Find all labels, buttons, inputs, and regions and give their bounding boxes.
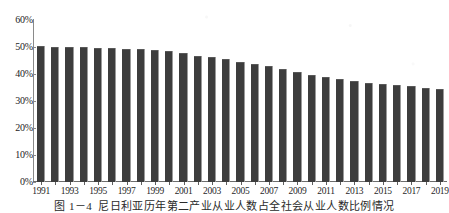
y-tick: 20% — [0, 128, 33, 129]
y-tick: 40% — [0, 74, 33, 75]
bar — [279, 69, 287, 182]
figure-caption: 图 1－4尼日利亚历年第二产业从业人数占全社会从业人数比例情况 — [0, 199, 449, 213]
bar — [265, 66, 273, 182]
bar-series — [34, 20, 447, 182]
bar — [379, 84, 387, 182]
y-tick: 30% — [0, 101, 33, 102]
y-tick-label: 10% — [2, 150, 33, 160]
x-tick-label: 1997 — [118, 185, 136, 197]
bar — [365, 83, 373, 182]
x-tick-label: 1995 — [89, 185, 107, 197]
x-tick-label: 2011 — [317, 185, 334, 197]
y-tick-label: 60% — [2, 15, 33, 25]
x-tick-label: 2005 — [232, 185, 250, 197]
y-tick: 0% — [0, 182, 33, 183]
x-tick-label: 2019 — [431, 185, 449, 197]
x-tick-label: 1999 — [146, 185, 164, 197]
x-axis-labels: 1991199319951997199920012003200520072009… — [34, 185, 447, 198]
bar — [80, 47, 88, 182]
y-tick: 50% — [0, 47, 33, 48]
y-tick-label: 30% — [2, 96, 33, 106]
bar — [65, 47, 73, 182]
x-tick-label: 2015 — [374, 185, 392, 197]
x-tick-label: 2003 — [203, 185, 221, 197]
y-tick-label: 40% — [2, 69, 33, 79]
bar — [137, 49, 145, 182]
x-tick-label: 2001 — [175, 185, 193, 197]
figure-caption-text: 尼日利亚历年第二产业从业人数占全社会从业人数比例情况 — [98, 200, 394, 212]
x-tick-label: 1993 — [61, 185, 79, 197]
bar — [208, 57, 216, 182]
figure-bar-chart: 0%10%20%30%40%50%60% 1991199319951997199… — [0, 0, 449, 213]
bar — [407, 86, 415, 182]
bar — [37, 46, 45, 182]
figure-number: 图 1－4 — [54, 200, 92, 212]
x-tick-label: 2017 — [402, 185, 420, 197]
bar — [322, 77, 330, 182]
bar — [393, 85, 401, 182]
y-tick-label: 0% — [2, 177, 33, 187]
bar — [165, 51, 173, 182]
y-tick-label: 20% — [2, 123, 33, 133]
bar — [94, 48, 102, 182]
bar — [293, 72, 301, 182]
bar — [151, 50, 159, 182]
y-tick: 60% — [0, 20, 33, 21]
x-tick-label: 2013 — [346, 185, 364, 197]
bar — [122, 49, 130, 182]
x-tick-label: 1991 — [32, 185, 50, 197]
y-tick: 10% — [0, 155, 33, 156]
bar — [308, 75, 316, 182]
bar — [236, 62, 244, 182]
y-tick-label: 50% — [2, 42, 33, 52]
bar — [179, 53, 187, 182]
x-tick-label: 2007 — [260, 185, 278, 197]
bar — [350, 81, 358, 182]
bar — [51, 47, 59, 182]
bar — [108, 48, 116, 182]
bar — [194, 56, 202, 182]
x-tick-label: 2009 — [289, 185, 307, 197]
bar — [222, 59, 230, 182]
bar — [251, 64, 259, 182]
bar — [336, 79, 344, 182]
bar — [422, 88, 430, 183]
bar — [436, 89, 444, 182]
